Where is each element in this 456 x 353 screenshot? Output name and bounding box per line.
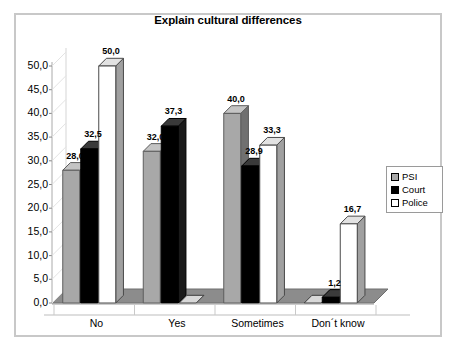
y-axis-tick-label: 25,0 (4, 178, 48, 190)
chart-container: Explain cultural differences 0,05,010,01… (0, 0, 456, 353)
legend-item-court: Court (391, 183, 442, 196)
legend-item-psi: PSI (391, 170, 442, 183)
x-axis-category-label: Yes (132, 317, 222, 329)
chart-legend: PSI Court Police (386, 166, 443, 213)
y-axis-tick-label: 35,0 (4, 130, 48, 142)
y-axis-tick-label: 45,0 (4, 83, 48, 95)
bar-value-label: 28,0 (60, 151, 90, 161)
y-axis-tick-label: 40,0 (4, 106, 48, 118)
legend-swatch-police (391, 199, 399, 207)
bar-value-label: 32,5 (78, 129, 108, 139)
y-axis-tick-label: 10,0 (4, 249, 48, 261)
bar-value-label: 16,7 (338, 204, 368, 214)
bar-value-label: 40,0 (221, 94, 251, 104)
legend-label-court: Court (402, 185, 425, 195)
y-axis-tick-label: 5,0 (4, 272, 48, 284)
x-axis-category-label: Don´t know (293, 317, 383, 329)
bar-value-label: 32,0 (141, 132, 171, 142)
legend-item-police: Police (391, 196, 442, 209)
y-axis-tick-label: 50,0 (4, 59, 48, 71)
bar-value-label: 33,3 (257, 125, 287, 135)
legend-swatch-court (391, 186, 399, 194)
legend-swatch-psi (391, 173, 399, 181)
y-axis-tick-label: 0,0 (4, 296, 48, 308)
bar-value-label: 37,3 (159, 106, 189, 116)
x-axis-category-label: No (51, 317, 141, 329)
bar-value-label: 28,9 (239, 146, 269, 156)
bar-value-label: 50,0 (96, 46, 126, 56)
x-axis-category-label: Sometimes (212, 317, 302, 329)
legend-label-police: Police (402, 198, 428, 208)
bar-value-label: 1,2 (320, 278, 350, 288)
y-axis-tick-label: 20,0 (4, 201, 48, 213)
y-axis-tick-label: 15,0 (4, 225, 48, 237)
y-axis-tick-label: 30,0 (4, 154, 48, 166)
legend-label-psi: PSI (402, 172, 417, 182)
